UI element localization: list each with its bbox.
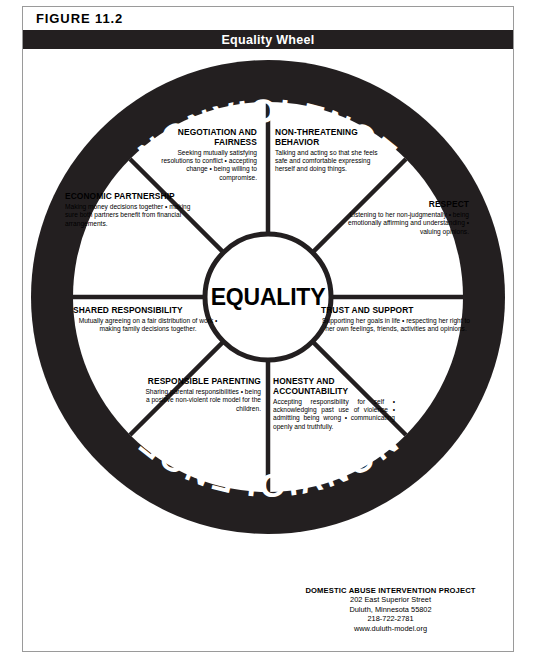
website-url[interactable]: www.duluth-model.org	[283, 624, 498, 634]
organization-name: DOMESTIC ABUSE INTERVENTION PROJECT	[283, 586, 498, 595]
segment-body: Mutually agreeing on a fair distribution…	[73, 317, 223, 334]
figure-title-bar: Equality Wheel	[23, 30, 513, 49]
wheel-segment-negotiation-and-fairness: NEGOTIATION AND FAIRNESS Seeking mutuall…	[149, 128, 257, 182]
figure-title: Equality Wheel	[221, 33, 314, 47]
segment-heading: ECONOMIC PARTNERSHIP	[65, 192, 199, 202]
address-line-2: Duluth, Minnesota 55802	[283, 605, 498, 615]
segment-body: Making money decisions together • making…	[65, 203, 199, 228]
wheel-segment-non-threatening-behavior: NON-THREATENING BEHAVIOR Talking and act…	[275, 128, 383, 174]
wheel-segment-economic-partnership: ECONOMIC PARTNERSHIP Making money decisi…	[65, 192, 199, 228]
segment-body: Sharing parental responsibilities • bein…	[145, 388, 261, 413]
wheel-segment-shared-responsibility: SHARED RESPONSIBILITY Mutually agreeing …	[73, 306, 223, 334]
segment-body: Seeking mutually satisfying resolutions …	[149, 149, 257, 182]
wheel-segment-trust-and-support: TRUST AND SUPPORT Supporting her goals i…	[321, 306, 471, 334]
organization-credit-block: DOMESTIC ABUSE INTERVENTION PROJECT 202 …	[283, 586, 498, 633]
figure-number-label: FIGURE 11.2	[36, 11, 123, 26]
segment-heading: RESPECT	[333, 200, 469, 210]
wheel-segment-honesty-and-accountability: HONESTY AND ACCOUNTABILITY Accepting res…	[273, 377, 395, 431]
address-line-1: 202 East Superior Street	[283, 595, 498, 605]
segment-heading: RESPONSIBLE PARENTING	[145, 377, 261, 387]
equality-wheel-diagram: NONVIOLENCE NONVIOLENCE EQUALITY NEGOTIA…	[23, 52, 513, 542]
segment-body: Listening to her non-judgmentally • bein…	[333, 211, 469, 236]
wheel-segment-responsible-parenting: RESPONSIBLE PARENTING Sharing parental r…	[145, 377, 261, 413]
segment-body: Supporting her goals in life • respectin…	[321, 317, 471, 334]
segment-body: Talking and acting so that she feels saf…	[275, 149, 383, 174]
segment-heading: HONESTY AND ACCOUNTABILITY	[273, 377, 395, 396]
segment-heading: NEGOTIATION AND FAIRNESS	[149, 128, 257, 147]
segment-heading: SHARED RESPONSIBILITY	[73, 306, 223, 316]
wheel-segment-respect: RESPECT Listening to her non-judgmentall…	[333, 200, 469, 236]
segment-heading: TRUST AND SUPPORT	[321, 306, 471, 316]
segment-heading: NON-THREATENING BEHAVIOR	[275, 128, 383, 147]
phone-number: 218-722-2781	[283, 614, 498, 624]
segment-body: Accepting responsibility for self • ackn…	[273, 398, 395, 431]
